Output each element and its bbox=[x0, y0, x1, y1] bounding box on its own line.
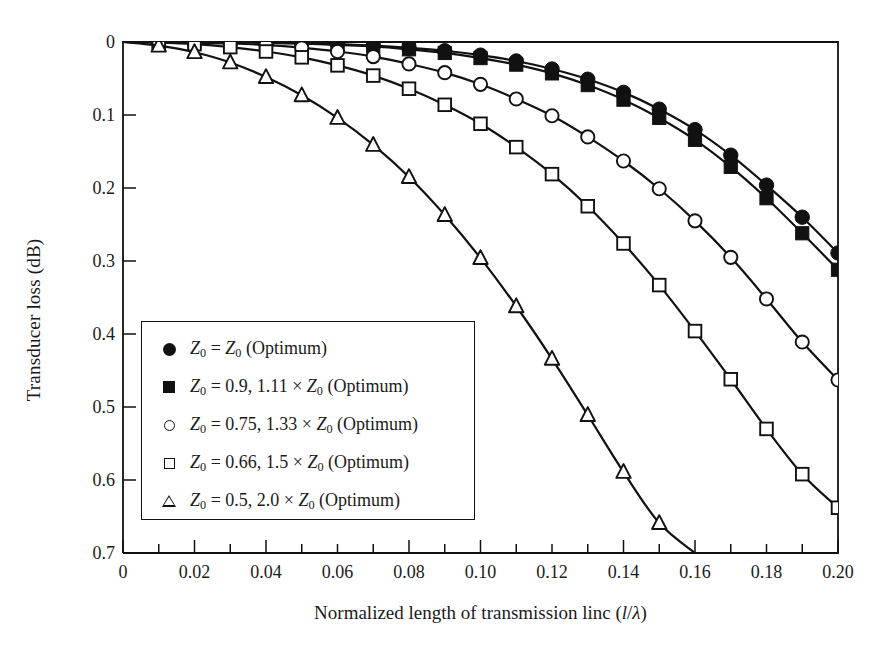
chart-figure: Transducer loss (dB) Normalized length o… bbox=[0, 0, 883, 655]
x-axis-label-prefix: Normalized length of transmission linc ( bbox=[314, 602, 622, 623]
legend-box: Z0 = Z0 (Optimum)Z0 = 0.9, 1.11 × Z0 (Op… bbox=[141, 321, 475, 520]
data-point-marker bbox=[331, 59, 344, 72]
data-point-marker bbox=[474, 78, 487, 91]
legend-item[interactable]: Z0 = 0.9, 1.11 × Z0 (Optimum) bbox=[156, 368, 408, 406]
data-point-marker bbox=[331, 45, 344, 58]
legend-item[interactable]: Z0 = 0.5, 2.0 × Z0 (Optimum) bbox=[156, 482, 400, 520]
data-point-marker bbox=[402, 57, 415, 70]
y-axis-label: Transducer loss (dB) bbox=[16, 40, 52, 600]
data-point-marker bbox=[438, 46, 451, 59]
data-point-marker bbox=[724, 160, 737, 173]
data-point-marker bbox=[617, 154, 630, 167]
legend-item-label: Z0 = Z0 (Optimum) bbox=[182, 338, 327, 361]
x-tick-label: 0.20 bbox=[822, 562, 854, 583]
x-axis-label: Normalized length of transmission linc (… bbox=[123, 602, 838, 624]
x-tick-label: 0.06 bbox=[322, 562, 354, 583]
legend-marker-shape bbox=[163, 343, 176, 356]
open-circle-icon bbox=[156, 420, 182, 431]
y-axis-label-container: Transducer loss (dB) bbox=[18, 40, 54, 540]
y-tick-label: 0.1 bbox=[59, 105, 115, 126]
data-point-marker bbox=[724, 373, 737, 386]
x-tick-label: 0.08 bbox=[393, 562, 425, 583]
data-point-marker bbox=[688, 214, 701, 227]
data-point-marker bbox=[796, 468, 809, 481]
data-point-marker bbox=[581, 200, 594, 213]
x-tick-label: 0.02 bbox=[179, 562, 211, 583]
data-point-marker bbox=[438, 98, 451, 111]
data-point-marker bbox=[474, 117, 487, 130]
data-point-marker bbox=[510, 141, 523, 154]
data-point-marker bbox=[760, 292, 773, 305]
data-point-marker bbox=[260, 45, 273, 58]
legend-item-label: Z0 = 0.5, 2.0 × Z0 (Optimum) bbox=[182, 490, 400, 513]
data-point-marker bbox=[795, 210, 809, 224]
data-point-marker bbox=[581, 407, 595, 421]
y-tick-label: 0.2 bbox=[59, 178, 115, 199]
y-tick-label: 0 bbox=[59, 32, 115, 53]
data-point-marker bbox=[330, 110, 344, 124]
x-tick-label: 0.12 bbox=[536, 562, 568, 583]
data-point-marker bbox=[581, 78, 594, 91]
x-axis-label-var-lambda: λ bbox=[632, 602, 640, 623]
x-axis-label-suffix: ) bbox=[641, 602, 647, 623]
y-tick-label: 0.3 bbox=[59, 251, 115, 272]
y-tick-label: 0.4 bbox=[59, 324, 115, 345]
legend-marker-shape bbox=[164, 458, 175, 469]
legend-marker-shape bbox=[164, 420, 175, 431]
x-tick-label: 0.04 bbox=[250, 562, 282, 583]
data-point-marker bbox=[760, 423, 773, 436]
open-triangle-icon bbox=[156, 495, 182, 507]
x-tick-label: 0 bbox=[119, 562, 128, 583]
data-point-marker bbox=[831, 263, 844, 276]
open-square-icon bbox=[156, 458, 182, 469]
data-point-marker bbox=[724, 251, 737, 264]
data-point-marker bbox=[224, 41, 237, 54]
legend-item[interactable]: Z0 = 0.75, 1.33 × Z0 (Optimum) bbox=[156, 406, 418, 444]
data-point-marker bbox=[653, 111, 666, 124]
data-point-marker bbox=[796, 227, 809, 240]
data-point-marker bbox=[295, 87, 309, 101]
legend-marker-shape bbox=[163, 381, 175, 393]
x-tick-label: 0.18 bbox=[751, 562, 783, 583]
data-point-marker bbox=[403, 82, 416, 95]
legend-marker-shape bbox=[162, 495, 176, 507]
x-tick-label: 0.16 bbox=[679, 562, 711, 583]
data-point-marker bbox=[831, 373, 844, 386]
data-point-marker bbox=[545, 67, 558, 80]
data-point-marker bbox=[689, 325, 702, 338]
legend-item-label: Z0 = 0.66, 1.5 × Z0 (Optimum) bbox=[182, 452, 409, 475]
x-tick-label: 0.10 bbox=[465, 562, 497, 583]
data-point-marker bbox=[760, 192, 773, 205]
y-ticks bbox=[123, 42, 136, 553]
filled-square-icon bbox=[156, 381, 182, 393]
legend-item[interactable]: Z0 = Z0 (Optimum) bbox=[156, 330, 327, 368]
data-point-marker bbox=[295, 51, 308, 64]
series-markers bbox=[152, 35, 846, 260]
data-point-marker bbox=[832, 501, 845, 514]
data-point-marker bbox=[796, 335, 809, 348]
data-point-marker bbox=[367, 50, 380, 63]
filled-circle-icon bbox=[156, 343, 182, 356]
x-tick-label: 0.14 bbox=[608, 562, 640, 583]
data-point-marker bbox=[366, 137, 380, 151]
data-point-marker bbox=[653, 279, 666, 292]
data-point-marker bbox=[545, 109, 558, 122]
data-point-marker bbox=[367, 69, 380, 82]
legend-item[interactable]: Z0 = 0.66, 1.5 × Z0 (Optimum) bbox=[156, 444, 409, 482]
data-point-marker bbox=[474, 51, 487, 64]
data-point-marker bbox=[688, 133, 701, 146]
data-point-marker bbox=[546, 168, 559, 181]
x-ticks bbox=[123, 540, 838, 553]
data-point-marker bbox=[510, 92, 523, 105]
data-point-marker bbox=[831, 246, 845, 260]
data-point-marker bbox=[759, 178, 773, 192]
data-point-marker bbox=[402, 43, 415, 56]
data-point-marker bbox=[653, 182, 666, 195]
y-tick-label: 0.6 bbox=[59, 470, 115, 491]
data-point-marker bbox=[617, 237, 630, 250]
legend-item-label: Z0 = 0.9, 1.11 × Z0 (Optimum) bbox=[182, 376, 408, 399]
y-tick-label: 0.7 bbox=[59, 543, 115, 564]
data-point-marker bbox=[510, 58, 523, 71]
y-tick-label: 0.5 bbox=[59, 397, 115, 418]
data-point-marker bbox=[617, 93, 630, 106]
